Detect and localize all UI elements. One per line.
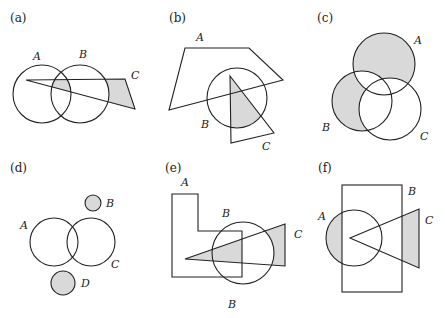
panel-label-b: (b): [169, 11, 186, 25]
panel-label-a: (a): [10, 11, 27, 25]
panel-c: (c) A B C: [317, 11, 429, 143]
label-c: C: [131, 69, 140, 82]
label-b: B: [407, 185, 416, 198]
label-a: A: [413, 34, 422, 47]
label-a: A: [195, 31, 204, 44]
label-a: A: [317, 210, 326, 223]
set-a-l-shape: [172, 194, 242, 277]
venn-diagram-figure: (a) A B C (b) A B C (c) A B C: [0, 0, 445, 318]
panel-b: (b) A B C: [169, 11, 283, 153]
label-c: C: [111, 258, 120, 271]
shaded-region-b-and-c: [230, 76, 274, 143]
label-c: C: [420, 130, 429, 143]
set-a-polygon: [169, 48, 283, 110]
panel-f: (f) A B C: [317, 161, 434, 292]
panel-label-d: (d): [10, 161, 27, 175]
label-a: A: [180, 176, 189, 189]
panel-d: (d) A B C D: [10, 161, 120, 295]
label-d: D: [80, 277, 90, 290]
label-a: A: [32, 50, 41, 63]
label-b: B: [105, 197, 114, 210]
label-c: C: [262, 140, 271, 153]
set-a-circle: [13, 65, 71, 123]
label-b: B: [78, 48, 87, 61]
label-b: B: [321, 121, 330, 134]
panel-label-f: (f): [318, 161, 332, 175]
label-b: B: [221, 207, 230, 220]
label-c: C: [294, 228, 303, 241]
panel-label-c: (c): [317, 11, 333, 25]
panel-a: (a) A B C: [10, 11, 140, 123]
label-b: B: [200, 118, 209, 131]
label-b-bottom: B: [227, 298, 236, 311]
panel-e: (e) A B C B: [165, 161, 303, 311]
label-a: A: [19, 219, 28, 232]
set-c-circle: [67, 218, 115, 266]
label-c: C: [425, 214, 434, 227]
panel-label-e: (e): [165, 161, 181, 175]
set-a-circle: [30, 218, 78, 266]
